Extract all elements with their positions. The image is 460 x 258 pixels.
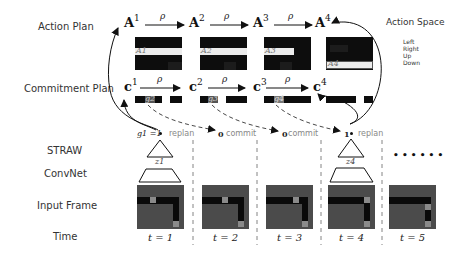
continuation-dots: • • • • • • xyxy=(393,150,443,160)
commitment-plan-node-1: c1 xyxy=(124,78,138,94)
time-label-3: t = 3 xyxy=(277,232,302,243)
action-transition-label-2: ρ xyxy=(224,11,229,21)
action-plan-node-2: A2 xyxy=(189,14,205,30)
input-frame-4 xyxy=(328,185,375,229)
gate-value-1: g1 =1 xyxy=(137,129,162,138)
commitment-transition-label-3: ρ xyxy=(285,74,290,84)
action-plan-block-2: A2 xyxy=(200,37,247,70)
gate-value-4: 1 xyxy=(344,129,350,139)
action-plan-node-1: A1 xyxy=(124,14,140,30)
action-plan-block-1: A1 xyxy=(135,37,182,70)
action-space-item-down: Down xyxy=(403,59,420,66)
action-space-list: Left Right Up Down xyxy=(403,38,420,66)
gate-dot-1 xyxy=(159,132,162,135)
commitment-plan-node-2: c2 xyxy=(189,78,203,94)
commitment-transition-label-2: ρ xyxy=(222,74,227,84)
commitment-plan-node-3: c3 xyxy=(253,78,267,94)
straw-latent-z1: z1 xyxy=(155,157,164,166)
commitment-plan-node-4: c4 xyxy=(313,78,327,94)
gate-action-1: replan xyxy=(169,129,194,138)
straw-latent-z4: z4 xyxy=(346,157,355,166)
commitment-plan-block-4 xyxy=(326,96,373,103)
action-plan-node-3: A3 xyxy=(253,14,269,30)
time-label-2: t = 2 xyxy=(213,232,238,243)
action-space-item-up: Up xyxy=(403,52,420,59)
action-plan-node-4: A4 xyxy=(315,14,331,30)
action-transition-label-1: ρ xyxy=(160,11,165,21)
action-plan-block-3: A3 xyxy=(264,37,311,70)
gate-action-4: replan xyxy=(358,129,383,138)
action-space-title: Action Space xyxy=(386,17,444,27)
gate-value-3: 0 xyxy=(282,129,288,139)
input-frame-2 xyxy=(202,185,249,229)
time-label-4: t = 4 xyxy=(339,232,364,243)
action-transition-label-3: ρ xyxy=(288,11,293,21)
gate-action-3: commit xyxy=(288,129,318,138)
gate-value-2: 0 xyxy=(218,129,224,139)
action-plan-block-4: A4 xyxy=(326,37,373,70)
gate-action-2: commit xyxy=(226,129,256,138)
time-label-5: t = 5 xyxy=(400,232,425,243)
input-frame-5 xyxy=(389,185,436,229)
commitment-plan-block-2: g3 xyxy=(200,96,247,103)
input-frame-3 xyxy=(266,185,313,229)
input-frame-1 xyxy=(137,185,184,229)
action-space-item-right: Right xyxy=(403,45,420,52)
commitment-plan-block-1: g2 xyxy=(135,96,182,103)
gate-dot-4 xyxy=(350,132,353,135)
commitment-transition-label-1: ρ xyxy=(157,74,162,84)
commitment-plan-block-3: g4 xyxy=(264,96,311,103)
time-label-1: t = 1 xyxy=(148,232,173,243)
action-space-item-left: Left xyxy=(403,38,420,45)
